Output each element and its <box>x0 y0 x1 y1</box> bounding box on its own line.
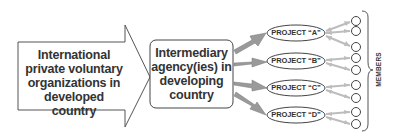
member-circle-9 <box>352 120 361 129</box>
arrow-to-project-d <box>234 92 266 115</box>
members-brace <box>362 11 373 131</box>
arrow-to-project-c <box>234 80 267 91</box>
member-circle-3 <box>352 43 361 52</box>
member-circle-4 <box>352 54 361 63</box>
source-line-2: private voluntary <box>22 62 126 76</box>
project-d-label: PROJECT “D” <box>267 110 325 119</box>
member-circle-8 <box>352 108 361 117</box>
member-circle-7 <box>352 94 361 103</box>
member-circles <box>352 17 361 129</box>
intermediary-line-3: developing <box>150 74 233 88</box>
project-ellipses <box>267 25 325 123</box>
project-c-label: PROJECT “C” <box>267 83 325 92</box>
intermediary-line-1: Intermediary <box>150 46 233 60</box>
members-label: MEMBERS <box>374 50 383 90</box>
source-line-1: International <box>22 48 126 62</box>
project-b-label: PROJECT “B” <box>267 56 325 65</box>
member-circle-1 <box>352 17 361 26</box>
project-a-label: PROJECT “A” <box>267 28 325 37</box>
diagram-canvas: International private voluntary organiza… <box>0 0 406 140</box>
intermediary-box-label: Intermediary agency(ies) in developing c… <box>150 46 233 102</box>
arrow-to-project-a <box>234 33 266 54</box>
intermediary-to-project-arrows <box>234 33 267 115</box>
member-arrowheads <box>326 21 350 124</box>
source-line-3: organizations in <box>22 76 126 90</box>
source-line-4: developed country <box>22 90 126 118</box>
intermediary-line-2: agency(ies) in <box>150 60 233 74</box>
source-box-label: International private voluntary organiza… <box>22 48 126 118</box>
member-circle-2 <box>352 27 361 36</box>
arrow-to-project-b <box>234 58 267 67</box>
member-circle-5 <box>352 66 361 75</box>
intermediary-line-4: country <box>150 88 233 102</box>
member-circle-6 <box>352 81 361 90</box>
